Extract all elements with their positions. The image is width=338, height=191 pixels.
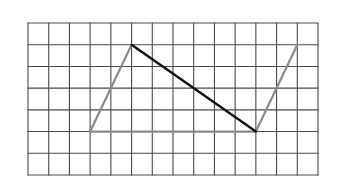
- grid-lines: [28, 23, 318, 175]
- grid-diagram: [0, 0, 338, 191]
